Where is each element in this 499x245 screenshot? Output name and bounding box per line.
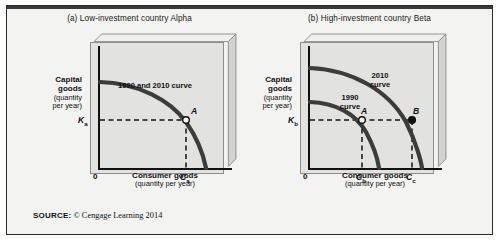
panel-b-point-b-label: B: [413, 106, 419, 116]
panel-a-y-axis-label: Capital goods (quantity per year): [20, 76, 82, 110]
panel-a-curve-label-text: 1990 and 2010 curve: [118, 81, 192, 90]
panel-b-y-tick-kb-sub: b: [294, 120, 298, 127]
panel-b-point-b-marker: [409, 117, 416, 124]
source-prefix: SOURCE:: [33, 211, 71, 220]
panel-b-curve-label-2010-line2: curve: [370, 80, 390, 89]
panel-b-ppf-curve-1990: [310, 102, 379, 168]
figure-accent-bar: [7, 6, 492, 9]
panel-b-y-label-note2: per year): [230, 102, 292, 110]
panel-b-title: (b) High-investment country Beta: [252, 14, 487, 23]
panel-b-curve-layer: [300, 34, 450, 182]
panel-b-y-tick-kb: Kb: [288, 115, 298, 127]
panel-a-x-label-note: (quantity per year): [90, 180, 240, 189]
panel-b-point-a-label: A: [361, 106, 367, 116]
source-line: SOURCE: © Cengage Learning 2014: [33, 211, 162, 220]
panel-a-plot: 1990 and 2010 curve A Ka 0 Ca: [90, 34, 240, 174]
panel-a-y-tick-ka-sub: a: [84, 120, 87, 127]
panel-b-curve-label-1990-line2: curve: [340, 102, 360, 111]
source-text: © Cengage Learning 2014: [73, 211, 162, 220]
panel-b-y-axis-label: Capital goods (quantity per year): [230, 76, 292, 110]
panel-b-x-label-note: (quantity per year): [300, 180, 450, 189]
panel-b-x-axis-label: Consumer goods (quantity per year): [300, 171, 450, 189]
panel-b-plot: 2010 curve 1990 curve A B Kb 0 Cb Cc: [300, 34, 450, 174]
panel-b-curve-label-2010: 2010 curve: [358, 72, 402, 89]
panel-a-title: (a) Low-investment country Alpha: [12, 14, 247, 23]
panel-a-curve-layer: [90, 34, 240, 182]
panel-a-ppf-curve: [100, 82, 206, 168]
panel-a-curve-label: 1990 and 2010 curve: [118, 82, 236, 91]
panel-a-point-a-marker: [183, 117, 190, 124]
panel-a-x-axis-label: Consumer goods (quantity per year): [90, 171, 240, 189]
panel-b: (b) High-investment country Beta Capital…: [252, 14, 487, 189]
panel-a-y-label-note2: per year): [20, 102, 82, 110]
figure-frame: (a) Low-investment country Alpha Capital…: [6, 5, 493, 235]
panel-a-point-a-label: A: [191, 106, 197, 116]
panel-a-y-tick-ka: Ka: [78, 115, 88, 127]
panel-a: (a) Low-investment country Alpha Capital…: [12, 14, 247, 189]
panel-b-point-a-marker: [359, 117, 366, 124]
